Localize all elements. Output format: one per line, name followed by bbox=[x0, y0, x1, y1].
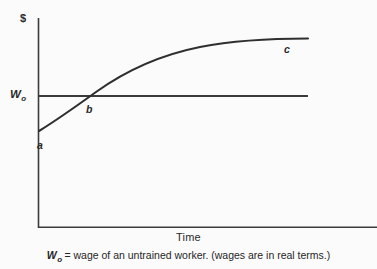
caption-wage-symbol: Wo bbox=[47, 249, 62, 261]
wage-symbol-subscript: o bbox=[21, 94, 26, 103]
caption-wage-letter: W bbox=[47, 249, 57, 261]
earnings-curve bbox=[39, 39, 308, 132]
wage-symbol: W bbox=[10, 88, 21, 100]
point-label-b: b bbox=[86, 104, 92, 115]
x-axis-title: Time bbox=[0, 232, 377, 243]
point-label-a: a bbox=[37, 140, 43, 151]
figure-container: $ Wo a b c Time Wo = wage of an untraine… bbox=[0, 0, 377, 269]
caption-wage-subscript: o bbox=[57, 255, 62, 264]
figure-caption: Wo = wage of an untrained worker. (wages… bbox=[0, 250, 377, 261]
wage-level-axis-label: Wo bbox=[10, 89, 26, 101]
caption-body: = wage of an untrained worker. (wages ar… bbox=[64, 249, 330, 261]
point-label-c: c bbox=[284, 44, 290, 55]
chart-plot-area bbox=[0, 0, 377, 269]
y-axis-title: $ bbox=[20, 13, 26, 24]
